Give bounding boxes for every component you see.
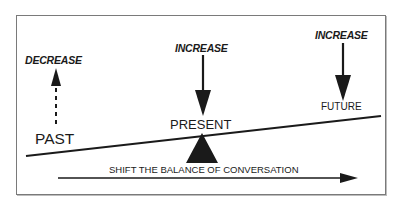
shift-balance-caption: SHIFT THE BALANCE OF CONVERSATION bbox=[109, 165, 299, 175]
future-label: FUTURE bbox=[321, 102, 362, 112]
diagram-canvas: DECREASE INCREASE INCREASE PAST PRESENT … bbox=[0, 0, 403, 208]
present-direction-label: INCREASE bbox=[175, 43, 228, 54]
present-label: PRESENT bbox=[170, 118, 231, 131]
future-increase-arrow-icon bbox=[335, 43, 351, 101]
present-increase-arrow-icon bbox=[195, 55, 211, 116]
future-direction-label: INCREASE bbox=[315, 30, 368, 41]
past-label: PAST bbox=[35, 131, 74, 147]
past-direction-label: DECREASE bbox=[25, 55, 82, 66]
past-decrease-arrow-icon bbox=[51, 68, 61, 124]
